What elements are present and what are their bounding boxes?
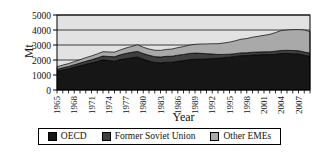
stacked-area-chart: 0100020003000400050001965196819711974197… bbox=[0, 0, 319, 157]
legend-label-former-soviet-union: Former Soviet Union bbox=[115, 131, 196, 141]
legend-item-oecd: OECD bbox=[48, 131, 87, 141]
legend-item-other-emes: Other EMEs bbox=[210, 131, 271, 141]
legend-swatch-former-soviet-union bbox=[102, 132, 111, 141]
legend-item-former-soviet-union: Former Soviet Union bbox=[102, 131, 196, 141]
legend: OECD Former Soviet Union Other EMEs bbox=[38, 128, 281, 145]
y-tick-label-0: 0 bbox=[46, 86, 51, 96]
legend-container: OECD Former Soviet Union Other EMEs bbox=[0, 128, 319, 145]
x-axis-title: Year bbox=[57, 110, 310, 125]
legend-label-oecd: OECD bbox=[61, 131, 87, 141]
legend-swatch-oecd bbox=[48, 132, 57, 141]
y-axis-title: Mt bbox=[23, 44, 35, 58]
y-tick-label-5000: 5000 bbox=[32, 11, 51, 21]
legend-label-other-emes: Other EMEs bbox=[223, 131, 271, 141]
legend-swatch-other-emes bbox=[210, 132, 219, 141]
y-tick-label-4000: 4000 bbox=[32, 26, 51, 36]
y-tick-label-1000: 1000 bbox=[32, 71, 51, 81]
